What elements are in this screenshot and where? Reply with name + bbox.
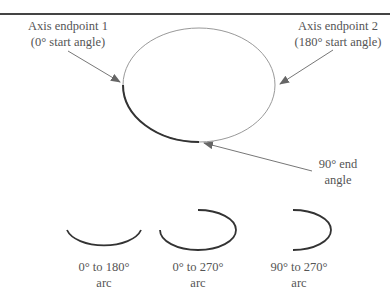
label-text: angle — [308, 172, 368, 188]
label-endpoint1: Axis endpoint 1 (0° start angle) — [18, 18, 118, 50]
label-endpoint2: Axis endpoint 2 (180° start angle) — [283, 18, 390, 50]
arc-label-2: 0° to 270° arc — [158, 259, 238, 291]
arrow-endpoint2 — [280, 50, 333, 84]
label-text: arc — [254, 275, 344, 291]
label-end-angle: 90° end angle — [308, 156, 368, 188]
arc-90-270 — [293, 210, 331, 250]
label-text: 0° to 270° — [158, 259, 238, 275]
label-text: 0° to 180° — [64, 259, 144, 275]
arrow-endpoint1 — [68, 51, 120, 82]
arc-label-1: 0° to 180° arc — [64, 259, 144, 291]
arc-0-180 — [67, 230, 141, 245]
label-text: Axis endpoint 1 — [18, 18, 118, 34]
highlighted-arc — [123, 85, 199, 142]
label-text: (0° start angle) — [18, 34, 118, 50]
arrow-end-angle — [204, 143, 312, 171]
label-text: (180° start angle) — [283, 34, 390, 50]
arc-label-3: 90° to 270° arc — [254, 259, 344, 291]
label-text: arc — [64, 275, 144, 291]
label-text: Axis endpoint 2 — [283, 18, 390, 34]
arc-0-270 — [160, 210, 236, 250]
label-text: 90° to 270° — [254, 259, 344, 275]
label-text: arc — [158, 275, 238, 291]
label-text: 90° end — [308, 156, 368, 172]
